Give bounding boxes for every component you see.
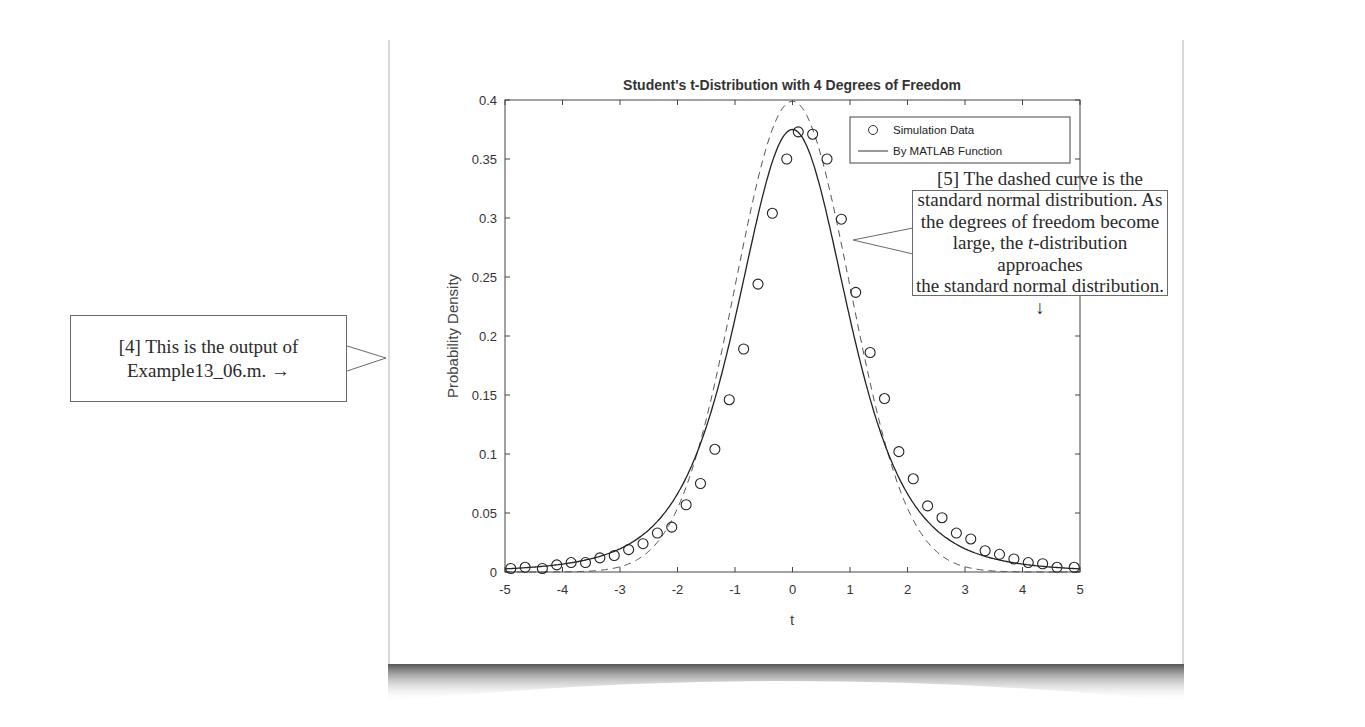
callout-right-line1: [5] The dashed curve is the xyxy=(913,168,1167,190)
data-point xyxy=(923,501,933,511)
data-point xyxy=(638,539,648,549)
svg-text:0.3: 0.3 xyxy=(479,211,497,226)
svg-text:0.1: 0.1 xyxy=(479,447,497,462)
data-point xyxy=(851,287,861,297)
callout-right-line2: standard normal distribution. As xyxy=(913,189,1167,211)
data-point xyxy=(808,129,818,139)
data-point xyxy=(667,522,677,532)
data-point xyxy=(836,214,846,224)
svg-text:5: 5 xyxy=(1076,582,1083,597)
svg-text:0.15: 0.15 xyxy=(472,388,497,403)
data-point xyxy=(696,479,706,489)
data-point xyxy=(724,395,734,405)
svg-text:0.2: 0.2 xyxy=(479,329,497,344)
svg-text:-5: -5 xyxy=(499,582,511,597)
right-callout-pointer xyxy=(853,228,913,254)
svg-text:0: 0 xyxy=(490,565,497,580)
chart-title: Student's t-Distribution with 4 Degrees … xyxy=(623,77,961,93)
data-point xyxy=(1038,559,1048,569)
callout-right-line3: the degrees of freedom become xyxy=(913,211,1167,233)
callout-left-line1: [4] This is the output of xyxy=(71,335,346,359)
svg-text:0.05: 0.05 xyxy=(472,506,497,521)
svg-text:0.4: 0.4 xyxy=(479,93,497,108)
callout-normal-note: [5] The dashed curve is the standard nor… xyxy=(912,190,1168,296)
svg-text:0.25: 0.25 xyxy=(472,270,497,285)
callout-left-line2: Example13_06.m. → xyxy=(71,359,346,383)
data-point xyxy=(880,394,890,404)
y-axis-label: Probability Density xyxy=(444,273,461,398)
svg-text:-4: -4 xyxy=(557,582,569,597)
data-point xyxy=(652,528,662,538)
data-point xyxy=(865,348,875,358)
legend-label-simulation: Simulation Data xyxy=(893,124,975,136)
data-point xyxy=(767,208,777,218)
svg-text:2: 2 xyxy=(904,582,911,597)
data-point xyxy=(966,534,976,544)
data-point xyxy=(753,279,763,289)
data-point xyxy=(908,474,918,484)
data-point xyxy=(822,154,832,164)
legend-label-matlab: By MATLAB Function xyxy=(893,145,1002,157)
y-axis-ticks: 00.050.10.150.20.250.30.350.4 xyxy=(472,93,1080,580)
data-point xyxy=(894,447,904,457)
data-point xyxy=(782,154,792,164)
data-point xyxy=(739,344,749,354)
svg-text:1: 1 xyxy=(846,582,853,597)
data-point xyxy=(995,549,1005,559)
data-point xyxy=(980,546,990,556)
svg-text:0.35: 0.35 xyxy=(472,152,497,167)
svg-text:4: 4 xyxy=(1019,582,1026,597)
data-point xyxy=(624,545,634,555)
data-point xyxy=(937,513,947,523)
legend: Simulation Data By MATLAB Function xyxy=(850,117,1070,163)
x-axis-label: t xyxy=(790,611,795,628)
data-point xyxy=(1069,562,1079,572)
callout-output-note: [4] This is the output of Example13_06.m… xyxy=(70,315,347,402)
callout-right-line5: the standard normal distribution. ↓ xyxy=(913,275,1167,318)
svg-text:-3: -3 xyxy=(614,582,626,597)
data-point xyxy=(1023,558,1033,568)
data-point xyxy=(581,558,591,568)
svg-text:-1: -1 xyxy=(729,582,741,597)
svg-text:3: 3 xyxy=(961,582,968,597)
svg-text:-2: -2 xyxy=(672,582,684,597)
svg-text:0: 0 xyxy=(789,582,796,597)
data-point xyxy=(951,528,961,538)
data-point xyxy=(681,500,691,510)
left-callout-pointer xyxy=(344,345,386,372)
callout-right-line4: large, the t-distribution approaches xyxy=(913,232,1167,275)
data-point xyxy=(710,444,720,454)
